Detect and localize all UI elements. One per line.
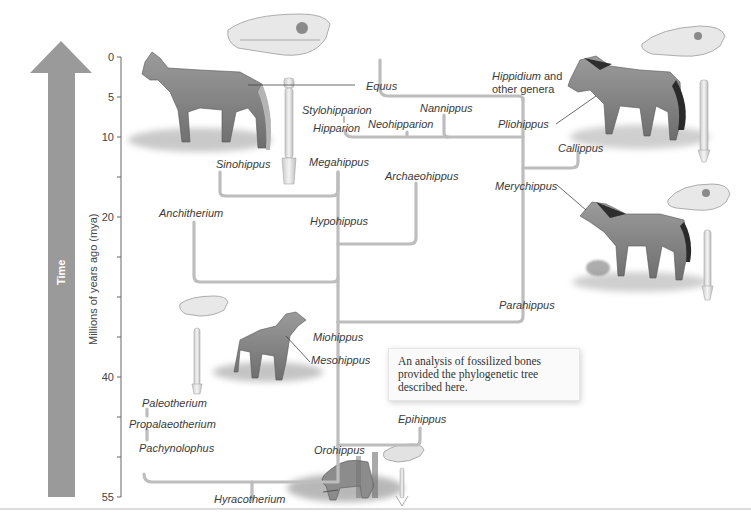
tick-label-5: 5 [94,91,114,103]
analysis-note: An analysis of fossilized bones provided… [388,348,580,401]
mesohippus-horse-illustration [213,312,323,382]
taxon-stylohipparion: Stylohipparion [302,104,372,116]
time-arrow-label: Time [55,260,67,285]
pliohippus-horse-illustration [568,56,710,149]
taxon-anchitherium: Anchitherium [159,207,223,219]
mesohippus-leader-line [286,336,310,362]
taxon-pliohippus: Pliohippus [498,118,549,130]
taxon-neohipparion: Neohipparion [368,118,433,130]
taxon-sinohippus: Sinohippus [216,158,270,170]
taxon-mesohippus: Mesohippus [311,354,370,366]
hyracotherium-animal-illustration [287,452,403,502]
merychippus-leg-bone-illustration [702,230,713,300]
taxon-paleotherium: Paleotherium [142,397,207,409]
axis-title: Millions of years ago (mya) [87,214,99,345]
taxon-callippus: Callippus [558,142,603,154]
taxon-pachynolophus: Pachynolophus [139,442,214,454]
taxon-epihippus: Epihippus [398,413,446,425]
taxon-equus: Equus [366,80,397,92]
taxon-hippidium-name: Hippidium [492,70,541,82]
equus-leg-bone-illustration [282,78,296,184]
taxon-hipparion: Hipparion [313,122,360,134]
tick-label-10: 10 [94,131,114,143]
taxon-megahippus: Megahippus [309,156,369,168]
pliohippus-skull-illustration [642,26,725,56]
bottom-divider [0,508,751,510]
pliohippus-leg-bone-illustration [698,80,710,162]
time-axis [117,57,121,497]
equus-skull-illustration [228,14,330,55]
taxon-parahippus: Parahippus [499,299,555,311]
pliohippus-leader-line [556,96,596,124]
taxon-archaeohippus: Archaeohippus [385,170,458,182]
taxon-propalaeotherium: Propalaeotherium [129,418,216,430]
merychippus-skull-illustration [668,184,730,210]
equus-horse-illustration [128,52,272,152]
tick-label-55: 55 [94,491,114,503]
taxon-miohippus: Miohippus [313,331,363,343]
merychippus-horse-illustration [572,202,708,292]
mesohippus-leg-bone-illustration [192,328,202,394]
hyracotherium-skull-illustration [384,444,425,462]
taxon-hippidium-suffix: and [541,70,562,82]
tick-label-40: 40 [94,371,114,383]
merychippus-leader-line [557,185,586,210]
taxon-hypohippus: Hypohippus [310,215,368,227]
taxon-nannippus: Nannippus [420,102,473,114]
taxon-hippidium: Hippidium and [492,70,562,82]
taxon-other-genera: other genera [492,83,554,95]
tick-label-0: 0 [94,51,114,63]
taxon-merychippus: Merychippus [495,180,557,192]
taxon-orohippus: Orohippus [314,444,365,456]
mesohippus-skull-illustration [180,296,228,316]
taxon-hyracotherium: Hyracotherium [214,493,286,505]
